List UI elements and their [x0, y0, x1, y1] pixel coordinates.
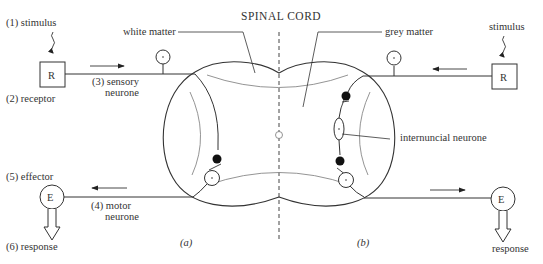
reflex-arc-a: (1) stimulus R (2) receptor (3) sensory …: [6, 17, 222, 253]
synapse-mark-right-upper: [341, 100, 349, 108]
internuncial-axon: [339, 140, 340, 155]
ganglion-nucleus-left: [162, 56, 164, 58]
motor-axon-in-cord-left: [193, 184, 207, 197]
motor-nucleus-left: [211, 177, 213, 179]
effector-label: (5) effector: [6, 171, 54, 183]
receptor-label: (2) receptor: [6, 93, 56, 105]
effector-glyph-left: E: [47, 192, 53, 203]
synapse-mark-left: [209, 164, 221, 170]
sensory-path-in-cord-left: [195, 74, 218, 150]
effector-glyph-right: E: [498, 194, 504, 205]
motor-nucleus-right: [345, 179, 347, 181]
motor-neurone-label-word: neurone: [105, 211, 139, 222]
synapse-knob-left: [213, 155, 222, 164]
response-label-right: response: [492, 243, 529, 254]
region-labels: white matter grey matter: [123, 26, 434, 107]
sensory-path-in-cord-right: [348, 76, 363, 92]
sensory-neurone-label-word: neurone: [105, 87, 139, 98]
internuncial-leader-line: [342, 134, 390, 139]
internuncial-nucleus: [338, 128, 340, 130]
response-label-left: (6) response: [6, 241, 58, 253]
response-arrow-right: [495, 211, 511, 242]
stimulus-wave-left: [52, 32, 55, 53]
synapse-knob-right-lower: [336, 157, 345, 166]
reflex-arc-diagram: SPINAL CORD (1) stimulus R (2) receptor …: [0, 0, 543, 264]
grey-matter-label: grey matter: [385, 26, 434, 37]
internuncial-dendrite: [339, 108, 341, 118]
reflex-arc-b: stimulus R internuncial neurone E respo: [334, 21, 529, 254]
stimulus-label-left: (1) stimulus: [6, 17, 56, 29]
diagram-title: SPINAL CORD: [241, 10, 321, 22]
white-matter-leader: [178, 32, 255, 73]
receptor-glyph-left: R: [48, 70, 55, 81]
caption-a: (a): [180, 237, 193, 249]
caption-b: (b): [357, 237, 370, 249]
white-matter-label: white matter: [123, 26, 176, 37]
stimulus-wave-right: [503, 36, 506, 57]
motor-axon-in-cord-right: [350, 186, 364, 197]
receptor-glyph-right: R: [500, 72, 507, 83]
stimulus-label-right: stimulus: [489, 21, 525, 32]
response-arrow-left: [44, 209, 60, 240]
synapse-knob-right-upper: [342, 92, 351, 101]
ganglion-nucleus-right: [393, 57, 395, 59]
internuncial-neurone-label: internuncial neurone: [400, 132, 487, 143]
central-canal: [276, 132, 283, 139]
